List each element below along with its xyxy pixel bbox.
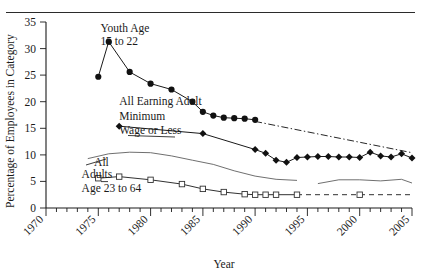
youth-extrapolation-line [255, 121, 412, 152]
y-tick-label: 10 [25, 149, 37, 161]
data-point-marker [335, 153, 342, 160]
y-tick-label: 35 [25, 16, 37, 28]
data-point-marker [357, 192, 362, 197]
data-point-marker [263, 192, 268, 197]
series-annotation: All Earning Adult [119, 95, 202, 108]
data-point-marker [346, 153, 353, 160]
x-tick-label: 2000 [334, 213, 359, 238]
data-point-marker [283, 159, 290, 166]
series-all [88, 152, 412, 183]
y-axis-ticks [40, 22, 46, 208]
data-point-marker [199, 130, 206, 137]
youth-line [98, 42, 255, 120]
data-point-marker [273, 157, 280, 164]
x-axis-minor-ticks [56, 208, 401, 212]
data-point-marker [314, 153, 321, 160]
data-point-marker [409, 155, 416, 162]
data-point-marker [325, 153, 332, 160]
x-axis-tick-labels: 1970 1975 1980 1985 1990 1995 2000 2005 [21, 213, 412, 238]
data-point-marker [252, 146, 259, 153]
all-line-segment [318, 179, 412, 183]
x-tick-label: 1995 [282, 213, 307, 238]
data-point-marker [200, 109, 206, 115]
data-point-marker [252, 117, 258, 123]
series-annotation: Minimum [119, 110, 165, 122]
x-tick-label: 1970 [21, 213, 46, 238]
series-annotation: Age 23 to 64 [82, 182, 142, 195]
data-point-marker [95, 74, 101, 80]
data-point-marker [304, 153, 311, 160]
x-tick-label: 1980 [125, 213, 150, 238]
data-point-marker [273, 192, 278, 197]
data-point-marker [252, 192, 257, 197]
chart-figure: Percentage of Employees in Category 0 5 … [0, 0, 421, 276]
data-point-marker [221, 115, 227, 121]
data-point-marker [293, 154, 300, 161]
x-tick-label: 1985 [178, 213, 203, 238]
data-point-marker [127, 69, 133, 75]
chart-svg: Percentage of Employees in Category 0 5 … [0, 0, 421, 276]
data-point-marker [377, 152, 384, 159]
x-tick-label: 2005 [387, 213, 412, 238]
data-point-marker [147, 81, 153, 87]
x-tick-label: 1990 [230, 213, 255, 238]
data-point-marker [168, 86, 174, 92]
x-axis-title: Year [213, 258, 234, 270]
y-axis-tick-labels: 0 5 10 15 20 25 30 35 [25, 16, 37, 214]
y-axis-title: Percentage of Employees in Category [4, 34, 17, 208]
y-tick-label: 5 [30, 175, 36, 187]
data-point-marker [200, 186, 205, 191]
data-point-marker [242, 116, 248, 122]
data-point-marker [356, 154, 363, 161]
x-tick-label: 1975 [73, 213, 98, 238]
series-annotation: All [94, 156, 109, 168]
data-point-marker [367, 149, 374, 156]
data-point-marker [294, 192, 299, 197]
data-point-marker [388, 153, 395, 160]
series-adults-23-to-64 [96, 174, 412, 197]
data-point-marker [210, 112, 216, 118]
y-tick-label: 20 [25, 96, 37, 108]
data-point-marker [148, 177, 153, 182]
y-tick-label: 25 [25, 69, 37, 81]
data-point-marker [231, 115, 237, 121]
series-annotation: Adults [82, 168, 113, 180]
series-annotation: 15 to 22 [100, 35, 138, 47]
data-point-marker [242, 191, 247, 196]
data-point-marker [262, 150, 269, 157]
x-axis-major-ticks [46, 208, 412, 216]
y-tick-label: 0 [30, 202, 36, 214]
series-annotation: Youth Age [100, 22, 149, 35]
data-point-marker [179, 181, 184, 186]
annotations: Youth Age15 to 22All Earning AdultMinimu… [82, 22, 203, 195]
series-youth-extrapolated [255, 121, 412, 152]
data-point-marker [117, 174, 122, 179]
y-tick-label: 30 [25, 43, 37, 55]
series-annotation: Wage or Less [119, 124, 182, 137]
y-tick-label: 15 [25, 122, 37, 134]
data-point-marker [221, 189, 226, 194]
